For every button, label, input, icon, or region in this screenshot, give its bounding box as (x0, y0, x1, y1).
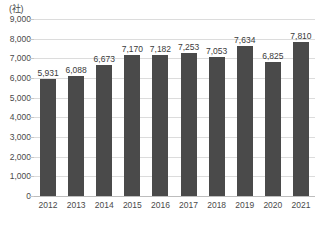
axis-baseline (34, 196, 315, 197)
y-tick-label: 6,000 (0, 73, 31, 83)
y-tick-label: 5,000 (0, 93, 31, 103)
bar-value-label: 7,053 (199, 46, 235, 56)
y-tick-mark (30, 98, 34, 99)
y-tick-label: 0 (0, 191, 31, 201)
y-tick-mark (30, 39, 34, 40)
y-tick-mark (30, 157, 34, 158)
bar (68, 76, 84, 196)
y-tick-mark (30, 19, 34, 20)
bar-value-label: 7,634 (227, 35, 263, 45)
bar (265, 62, 281, 196)
gridline (34, 39, 315, 40)
bar (293, 42, 309, 196)
bar (209, 57, 225, 196)
bar (152, 55, 168, 196)
y-tick-label: 1,000 (0, 171, 31, 181)
y-tick-mark (30, 58, 34, 59)
y-tick-label: 2,000 (0, 152, 31, 162)
bar-value-label: 7,810 (283, 31, 319, 41)
gridline (34, 19, 315, 20)
bar (40, 79, 56, 196)
bar-value-label: 6,673 (86, 54, 122, 64)
bar-chart: (社) 9,0008,0007,0006,0005,0004,0003,0002… (0, 0, 329, 226)
y-tick-label: 9,000 (0, 14, 31, 24)
bar-value-label: 6,088 (58, 65, 94, 75)
y-tick-mark (30, 117, 34, 118)
y-tick-mark (30, 176, 34, 177)
y-tick-label: 8,000 (0, 34, 31, 44)
y-tick-mark (30, 137, 34, 138)
y-tick-label: 7,000 (0, 53, 31, 63)
y-tick-label: 4,000 (0, 112, 31, 122)
bar (237, 46, 253, 196)
bar (96, 65, 112, 196)
y-tick-mark (30, 196, 34, 197)
x-tick-label: 2021 (283, 200, 319, 210)
bar (124, 55, 140, 196)
bar-value-label: 6,825 (255, 51, 291, 61)
bar (181, 53, 197, 196)
y-tick-label: 3,000 (0, 132, 31, 142)
